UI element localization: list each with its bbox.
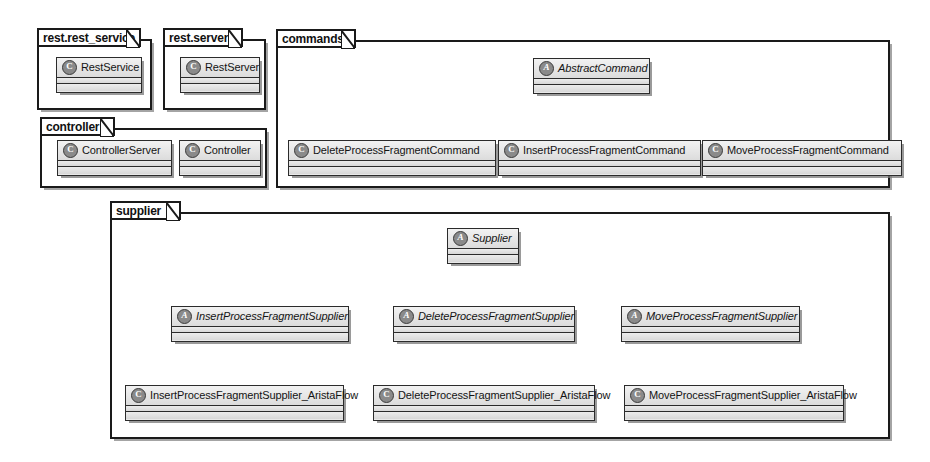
class-operations-compartment: [703, 167, 901, 174]
class-box-insert-process-fragment-command[interactable]: C InsertProcessFragmentCommand: [498, 140, 701, 176]
class-name-supplier: Supplier: [472, 233, 512, 244]
class-box-controller-server[interactable]: C ControllerServer: [57, 140, 172, 176]
class-operations-compartment: [58, 167, 171, 174]
class-name-move-process-fragment-command: MoveProcessFragmentCommand: [727, 145, 889, 156]
package-label-controller: controller: [46, 120, 99, 134]
abstract-badge-icon: A: [627, 309, 642, 324]
class-badge-icon: C: [186, 60, 201, 75]
package-tab-notch-icon: [341, 30, 355, 49]
class-header-move-process-fragment-supplier-aristaflow: C MoveProcessFragmentSupplier_AristaFlow: [625, 386, 843, 406]
class-operations-compartment: [394, 333, 574, 340]
class-name-delete-process-fragment-supplier-aristaflow: DeleteProcessFragmentSupplier_AristaFlow: [398, 390, 610, 401]
class-name-controller-server: ControllerServer: [82, 145, 160, 156]
class-operations-compartment: [181, 84, 259, 91]
package-tab-commands[interactable]: commands: [276, 29, 356, 48]
class-operations-compartment: [57, 84, 141, 91]
class-operations-compartment: [126, 412, 343, 419]
class-name-rest-server: RestServer: [205, 62, 259, 73]
class-name-controller: Controller: [204, 145, 251, 156]
class-header-controller: C Controller: [180, 141, 260, 161]
class-operations-compartment: [534, 85, 649, 92]
class-name-rest-service: RestService: [81, 62, 139, 73]
abstract-badge-icon: A: [539, 61, 554, 76]
class-operations-compartment: [180, 167, 260, 174]
package-label-rest-server: rest.server: [169, 31, 228, 45]
class-header-insert-process-fragment-supplier: A InsertProcessFragmentSupplier: [172, 307, 348, 327]
class-header-delete-process-fragment-supplier: A DeleteProcessFragmentSupplier: [394, 307, 574, 327]
class-box-insert-process-fragment-supplier[interactable]: A InsertProcessFragmentSupplier: [171, 306, 349, 342]
class-box-controller[interactable]: C Controller: [179, 140, 261, 176]
package-tab-notch-icon: [166, 202, 180, 221]
package-tab-supplier[interactable]: supplier: [110, 201, 181, 220]
abstract-badge-icon: A: [399, 309, 414, 324]
class-badge-icon: C: [379, 388, 394, 403]
class-header-supplier: A Supplier: [448, 229, 518, 249]
class-header-move-process-fragment-supplier: A MoveProcessFragmentSupplier: [622, 307, 799, 327]
class-badge-icon: C: [708, 143, 723, 158]
class-header-controller-server: C ControllerServer: [58, 141, 171, 161]
class-name-delete-process-fragment-supplier: DeleteProcessFragmentSupplier: [418, 311, 574, 322]
package-label-supplier: supplier: [116, 204, 161, 218]
package-tab-rest-rest-service[interactable]: rest.rest_service: [37, 28, 141, 47]
class-box-rest-service[interactable]: C RestService: [56, 57, 142, 93]
package-tab-notch-icon: [228, 29, 242, 48]
class-badge-icon: C: [504, 143, 519, 158]
class-header-rest-server: C RestServer: [181, 58, 259, 78]
class-box-delete-process-fragment-supplier-aristaflow[interactable]: C DeleteProcessFragmentSupplier_AristaFl…: [373, 385, 595, 421]
class-name-insert-process-fragment-supplier: InsertProcessFragmentSupplier: [196, 311, 348, 322]
class-box-move-process-fragment-supplier[interactable]: A MoveProcessFragmentSupplier: [621, 306, 800, 342]
class-name-insert-process-fragment-supplier-aristaflow: InsertProcessFragmentSupplier_AristaFlow: [150, 390, 358, 401]
class-box-delete-process-fragment-command[interactable]: C DeleteProcessFragmentCommand: [288, 140, 496, 176]
package-tab-rest-server[interactable]: rest.server: [163, 28, 243, 47]
class-operations-compartment: [289, 167, 495, 174]
package-label-rest-rest-service: rest.rest_service: [43, 31, 135, 45]
package-tab-notch-icon: [100, 118, 114, 137]
class-operations-compartment: [448, 255, 518, 262]
class-name-insert-process-fragment-command: InsertProcessFragmentCommand: [523, 145, 685, 156]
class-badge-icon: C: [63, 143, 78, 158]
class-name-delete-process-fragment-command: DeleteProcessFragmentCommand: [313, 145, 480, 156]
class-name-move-process-fragment-supplier: MoveProcessFragmentSupplier: [646, 311, 797, 322]
abstract-badge-icon: A: [453, 231, 468, 246]
class-badge-icon: C: [294, 143, 309, 158]
class-header-insert-process-fragment-supplier-aristaflow: C InsertProcessFragmentSupplier_AristaFl…: [126, 386, 343, 406]
class-box-rest-server[interactable]: C RestServer: [180, 57, 260, 93]
class-badge-icon: C: [131, 388, 146, 403]
class-header-rest-service: C RestService: [57, 58, 141, 78]
class-badge-icon: C: [630, 388, 645, 403]
class-box-supplier[interactable]: A Supplier: [447, 228, 519, 264]
uml-class-diagram: rest.rest_service C RestService rest.ser…: [0, 0, 930, 462]
class-header-delete-process-fragment-command: C DeleteProcessFragmentCommand: [289, 141, 495, 161]
class-box-abstract-command[interactable]: A AbstractCommand: [533, 58, 650, 94]
class-operations-compartment: [499, 167, 700, 174]
class-header-insert-process-fragment-command: C InsertProcessFragmentCommand: [499, 141, 700, 161]
class-name-move-process-fragment-supplier-aristaflow: MoveProcessFragmentSupplier_AristaFlow: [649, 390, 857, 401]
abstract-badge-icon: A: [177, 309, 192, 324]
class-box-move-process-fragment-command[interactable]: C MoveProcessFragmentCommand: [702, 140, 902, 176]
class-header-abstract-command: A AbstractCommand: [534, 59, 649, 79]
class-header-move-process-fragment-command: C MoveProcessFragmentCommand: [703, 141, 901, 161]
class-badge-icon: C: [185, 143, 200, 158]
class-box-move-process-fragment-supplier-aristaflow[interactable]: C MoveProcessFragmentSupplier_AristaFlow: [624, 385, 844, 421]
package-tab-notch-icon: [126, 29, 140, 48]
class-operations-compartment: [374, 412, 594, 419]
class-badge-icon: C: [62, 60, 77, 75]
class-box-delete-process-fragment-supplier[interactable]: A DeleteProcessFragmentSupplier: [393, 306, 575, 342]
class-box-insert-process-fragment-supplier-aristaflow[interactable]: C InsertProcessFragmentSupplier_AristaFl…: [125, 385, 344, 421]
class-name-abstract-command: AbstractCommand: [558, 63, 648, 74]
package-label-commands: commands: [282, 32, 344, 46]
class-operations-compartment: [172, 333, 348, 340]
package-tab-controller[interactable]: controller: [40, 117, 115, 136]
class-operations-compartment: [622, 333, 799, 340]
class-header-delete-process-fragment-supplier-aristaflow: C DeleteProcessFragmentSupplier_AristaFl…: [374, 386, 594, 406]
class-operations-compartment: [625, 412, 843, 419]
